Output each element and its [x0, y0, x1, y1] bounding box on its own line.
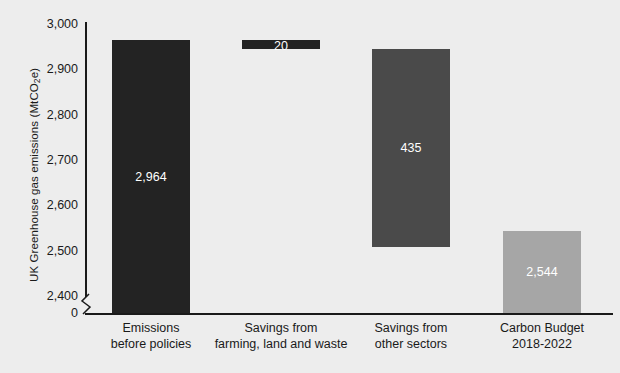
bar-savings-farming-land-waste[interactable]: 20 [242, 40, 320, 49]
bar-value-label: 20 [242, 39, 320, 53]
x-axis-category-label-line: Carbon Budget [457, 320, 620, 336]
x-axis-category-label: Carbon Budget2018-2022 [457, 320, 620, 352]
x-axis-category-label-line: 2018-2022 [457, 336, 620, 352]
bar-value-label: 435 [372, 141, 450, 155]
bar-value-label: 2,964 [112, 170, 190, 184]
bar-carbon-budget-2018-2022[interactable]: 2,544 [503, 231, 581, 313]
plot-area: 2,964204352,544Emissionsbefore policiesS… [0, 0, 620, 373]
waterfall-chart: UK Greenhouse gas emissions (MtCO2e) 3,0… [0, 0, 620, 373]
bar-savings-other-sectors[interactable]: 435 [372, 49, 450, 246]
bar-value-label: 2,544 [503, 265, 581, 279]
bar-emissions-before-policies[interactable]: 2,964 [112, 40, 190, 313]
